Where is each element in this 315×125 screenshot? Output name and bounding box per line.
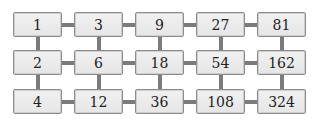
vertical-connector <box>97 74 101 90</box>
grid-cell: 2 <box>13 50 62 75</box>
vertical-connector <box>36 36 40 51</box>
number-grid-diagram: 139278126185416241236108324 <box>0 0 315 125</box>
vertical-connector <box>158 74 162 90</box>
horizontal-connector <box>122 61 136 65</box>
grid-cell: 27 <box>196 12 245 37</box>
vertical-connector <box>36 74 40 90</box>
grid-cell: 4 <box>13 89 62 114</box>
vertical-connector <box>97 36 101 51</box>
horizontal-connector <box>61 100 75 104</box>
grid-cell: 18 <box>135 50 184 75</box>
grid-cell: 81 <box>257 12 306 37</box>
grid-cell: 162 <box>257 50 306 75</box>
vertical-connector <box>219 36 223 51</box>
horizontal-connector <box>61 23 75 27</box>
horizontal-connector <box>244 61 258 65</box>
horizontal-connector <box>61 61 75 65</box>
horizontal-connector <box>122 100 136 104</box>
horizontal-connector <box>183 100 197 104</box>
vertical-connector <box>280 36 284 51</box>
grid-cell: 1 <box>13 12 62 37</box>
grid-cell: 12 <box>74 89 123 114</box>
grid-cell: 108 <box>196 89 245 114</box>
grid-cell: 36 <box>135 89 184 114</box>
grid-cell: 324 <box>257 89 306 114</box>
horizontal-connector <box>183 23 197 27</box>
grid-cell: 6 <box>74 50 123 75</box>
horizontal-connector <box>244 100 258 104</box>
horizontal-connector <box>183 61 197 65</box>
horizontal-connector <box>122 23 136 27</box>
grid-cell: 9 <box>135 12 184 37</box>
horizontal-connector <box>244 23 258 27</box>
grid-cell: 3 <box>74 12 123 37</box>
vertical-connector <box>280 74 284 90</box>
vertical-connector <box>158 36 162 51</box>
grid-cell: 54 <box>196 50 245 75</box>
vertical-connector <box>219 74 223 90</box>
